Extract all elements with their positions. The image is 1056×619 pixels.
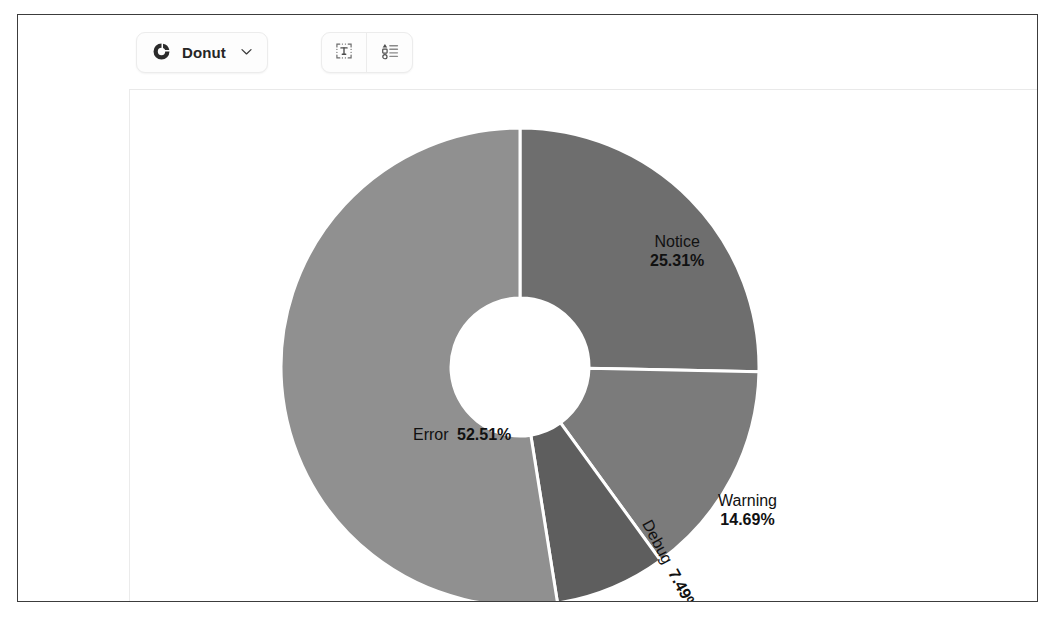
legend-list-icon <box>380 41 400 64</box>
chart-content-panel: Notice 25.31% Warning 14.69% Debug 7.49%… <box>129 89 1037 601</box>
chevron-down-icon <box>239 44 254 62</box>
donut-slice-error[interactable] <box>281 128 558 602</box>
donut-slice-notice[interactable] <box>520 128 759 372</box>
chart-type-group: Donut <box>136 32 268 73</box>
donut-chart-icon <box>152 42 171 64</box>
chart-toolbar: Donut <box>18 15 1037 89</box>
donut-slice-layer <box>281 128 759 602</box>
chart-type-label: Donut <box>182 44 226 61</box>
donut-svg <box>130 90 1038 602</box>
chart-type-dropdown[interactable]: Donut <box>152 42 254 64</box>
toggle-legend-button[interactable] <box>367 33 412 72</box>
donut-chart[interactable]: Notice 25.31% Warning 14.69% Debug 7.49%… <box>130 90 1037 601</box>
chart-window: Donut <box>17 14 1038 602</box>
chart-options-group <box>321 32 413 73</box>
toggle-data-labels-button[interactable] <box>322 33 367 72</box>
text-labels-icon <box>334 41 354 64</box>
